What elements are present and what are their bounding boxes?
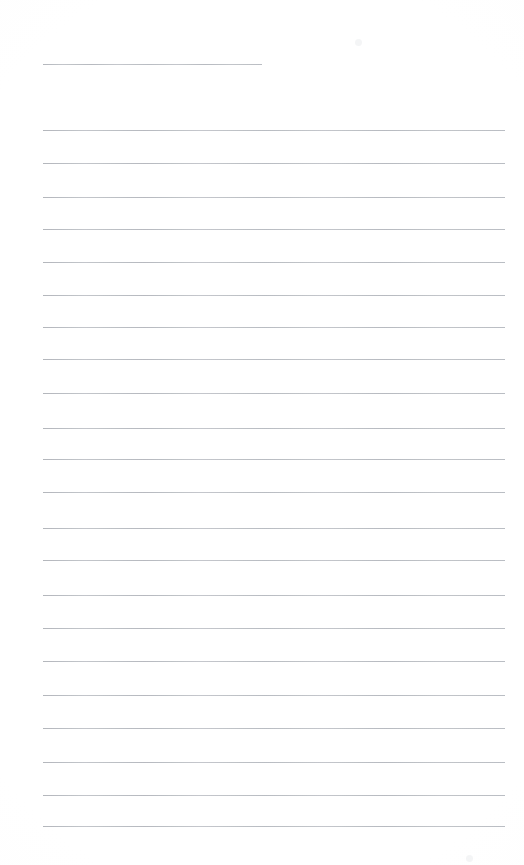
body-rule-14: [43, 560, 505, 561]
body-rule-10: [43, 428, 505, 429]
body-rule-4: [43, 229, 505, 230]
scanned-lined-page: [0, 0, 524, 865]
body-rule-3: [43, 197, 505, 198]
ruled-lines-layer: [0, 0, 524, 865]
body-rule-11: [43, 459, 505, 460]
body-rule-6: [43, 295, 505, 296]
body-rule-18: [43, 695, 505, 696]
body-rule-19: [43, 728, 505, 729]
body-rule-12: [43, 492, 505, 493]
body-rule-8: [43, 359, 505, 360]
body-rule-5: [43, 262, 505, 263]
header-rule: [43, 64, 262, 65]
scan-speck-bottom-right: [466, 855, 473, 862]
body-rule-20: [43, 762, 505, 763]
body-rule-21: [43, 795, 505, 796]
body-rule-9: [43, 393, 505, 394]
body-rule-13: [43, 528, 505, 529]
body-rule-1: [43, 130, 505, 131]
body-rule-15: [43, 595, 505, 596]
body-rule-7: [43, 327, 505, 328]
body-rule-2: [43, 163, 505, 164]
body-rule-22: [43, 826, 505, 827]
scan-speck-top-right: [355, 39, 362, 46]
body-rule-16: [43, 628, 505, 629]
body-rule-17: [43, 661, 505, 662]
